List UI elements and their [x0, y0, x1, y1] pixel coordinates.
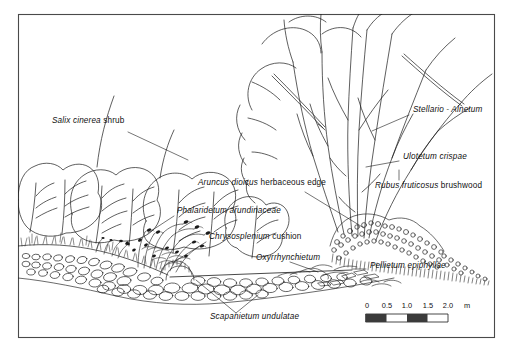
label-species-name: Ulotetum crispae: [403, 152, 467, 161]
vegetation-profile-figure: Salix cinerea shrub Stellario - Alnetum …: [0, 0, 514, 354]
label-qualifier: shrub: [101, 116, 125, 125]
label-species-name: Aruncus dioicus: [198, 178, 258, 187]
label-species-name: Scapanietum undulatae: [210, 312, 299, 321]
scale-unit-label: m: [464, 301, 470, 310]
label-species-name: Phalaridetum arundinaceae: [177, 206, 281, 215]
label-aruncus-dioicus-herbaceous-edge: Aruncus dioicus herbaceous edge: [198, 178, 326, 187]
label-qualifier: brushwood: [438, 181, 482, 190]
label-oxyrrhynchietum: Oxyrrhynchietum: [256, 253, 320, 262]
label-salix-cinerea-shrub: Salix cinerea shrub: [52, 116, 124, 125]
scale-tick-0-5: 0.5: [382, 301, 392, 310]
label-ulotetum-crispae: Ulotetum crispae: [403, 152, 467, 161]
label-phalaridetum-arundinaceae: Phalaridetum arundinaceae: [177, 206, 281, 215]
label-stellario-alnetum: Stellario - Alnetum: [413, 105, 482, 114]
scale-tick-1-5: 1.5: [423, 301, 433, 310]
label-qualifier: cushion: [270, 232, 302, 241]
label-species-name: Stellario - Alnetum: [413, 105, 482, 114]
figure-drawing: [0, 0, 514, 354]
label-species-name: Rubus fruticosus: [375, 181, 438, 190]
label-qualifier: herbaceous edge: [258, 178, 326, 187]
canvas-background: [0, 0, 514, 354]
label-rubus-fruticosus-brushwood: Rubus fruticosus brushwood: [375, 181, 482, 190]
label-species-name: Salix cinerea: [52, 116, 101, 125]
label-chrysosplenium-cushion: Chrysosplenium cushion: [209, 232, 302, 241]
label-pellietum-epiphyllae: Pellietum epiphyllae: [370, 261, 446, 270]
label-scapanietum-undulatae: Scapanietum undulatae: [210, 312, 299, 321]
label-species-name: Oxyrrhynchietum: [256, 253, 320, 262]
scale-tick-0: 0: [365, 301, 369, 310]
scale-tick-1-0: 1.0: [402, 301, 412, 310]
label-species-name: Chrysosplenium: [209, 232, 270, 241]
scale-tick-2-0: 2.0: [443, 301, 453, 310]
label-species-name: Pellietum epiphyllae: [370, 261, 446, 270]
